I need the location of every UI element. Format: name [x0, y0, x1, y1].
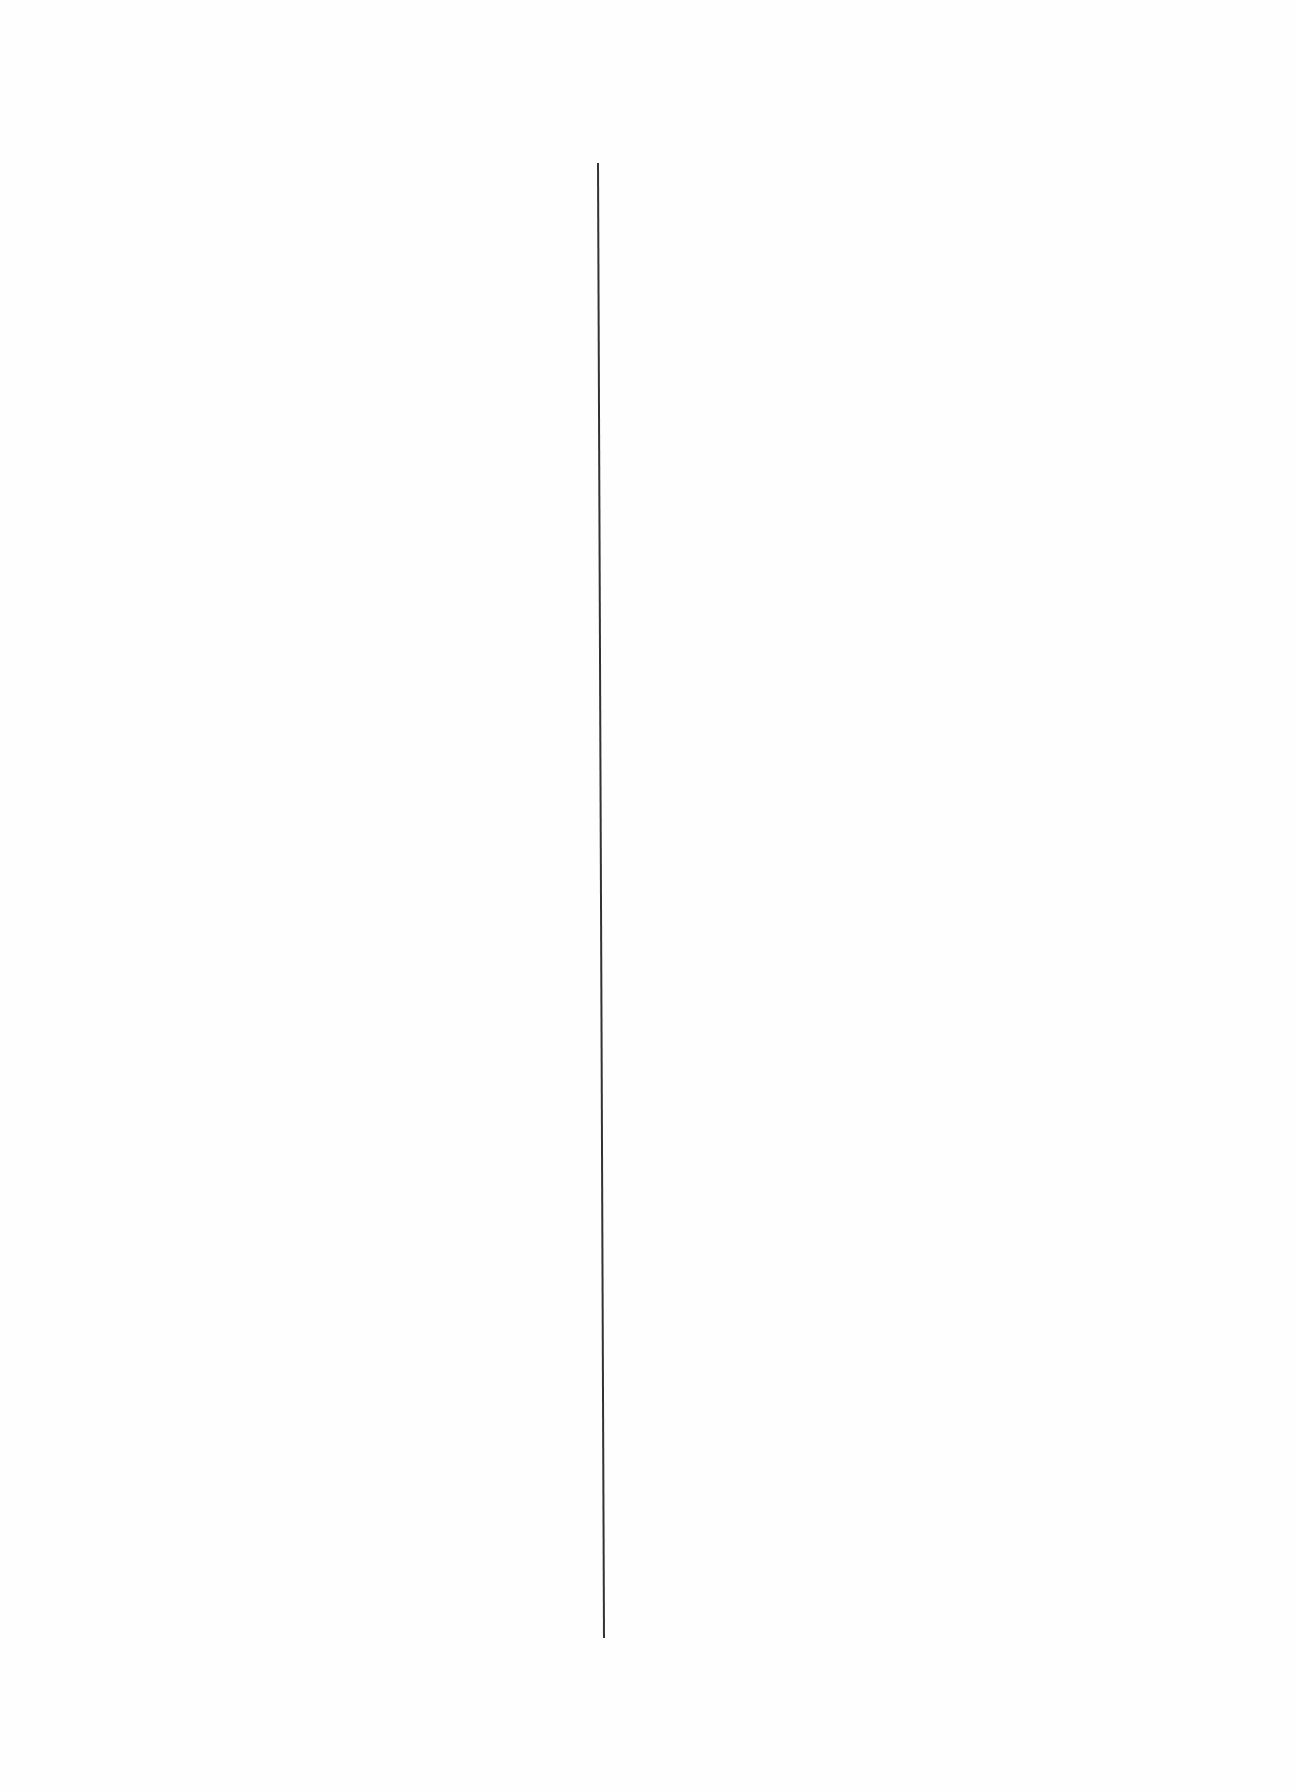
- vertical-divider-line: [0, 0, 1296, 1791]
- blank-document-page: [0, 0, 1296, 1791]
- divider-line-stroke: [598, 163, 604, 1638]
